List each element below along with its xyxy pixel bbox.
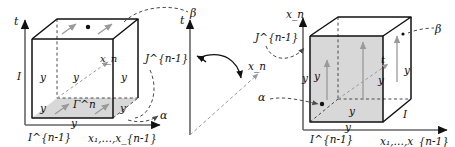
rotation-arrow-forward [198,55,241,78]
right-cube-face-label-1: y [313,70,321,82]
right-cube-beta-curve [408,28,434,33]
right-cube-beta-label: β [434,23,441,36]
figure-canvas: t x₁,…,x_{n-1} x_n I y y y y y y Γ^n I^{… [0,0,455,147]
left-cube-xn-diagonal-axis [57,62,108,98]
right-cube-face-label-2: y [403,64,411,76]
left-cube: t x₁,…,x_{n-1} x_n I y y y y y y Γ^n I^{… [14,7,196,145]
right-cube-right-face-dot [401,32,404,35]
left-cube-edge-label-2: y [119,102,127,114]
left-cube-x-axis-label: x₁,…,x_{n-1} [88,132,157,145]
left-cube-face-label-2: y [72,71,80,83]
left-cube-edge-label-1: y [39,102,47,114]
left-cube-xn-label: x_n [100,53,117,65]
left-cube-Jn1-label: J^{n-1} [143,52,188,65]
left-cube-In1-label: I^{n-1} [27,131,71,144]
left-cube-I-label: I [16,70,22,82]
left-cube-beta-curve [124,7,188,22]
right-cube-face-label-3: y [348,105,356,117]
right-cube-Jn1-curve [266,46,304,58]
rotation-xn-axis-label: x_n [248,60,266,73]
right-cube-edge-label-2: y [377,74,385,86]
left-cube-gamma-label: Γ^n [72,98,96,110]
right-cube-I-label: I [402,108,408,120]
right-cube-edge-label-1: y [301,72,309,84]
left-cube-alpha-label: α [160,109,168,122]
right-cube-In1-label: I^{n-1} [309,133,353,146]
right-cube-alpha-label: α [258,91,266,104]
right-cube-Jn1-label: J^{n-1} [253,31,298,44]
rotation-xn-axis [190,74,258,135]
left-cube-face-label-3: y [120,71,128,83]
rotation-indicator: t x_n [180,14,266,135]
right-cube-x-axis-label: x₁,…,x_{n-1} [380,135,449,147]
left-cube-edge-label-3: y [70,117,78,129]
left-cube-face-label-1: y [39,71,47,83]
left-cube-alpha-curve [128,116,158,122]
right-cube: x_n x₁,…,x_{n-1} t y y y y y y I I^{n-1}… [253,8,449,147]
right-cube-edge-label-3: y [344,121,352,133]
diagram-svg: t x₁,…,x_{n-1} x_n I y y y y y y Γ^n I^{… [0,0,455,147]
left-cube-top-face-dot [86,25,90,29]
right-cube-xn-axis-label: x_n [286,8,304,21]
right-cube-shaded-front-face [310,36,383,122]
right-cube-t-label: t [381,54,386,65]
left-cube-beta-label: β [189,7,196,20]
left-cube-t-axis-label: t [14,15,19,28]
right-cube-front-face-dot [320,102,324,106]
rotation-t-axis-label: t [180,14,185,27]
